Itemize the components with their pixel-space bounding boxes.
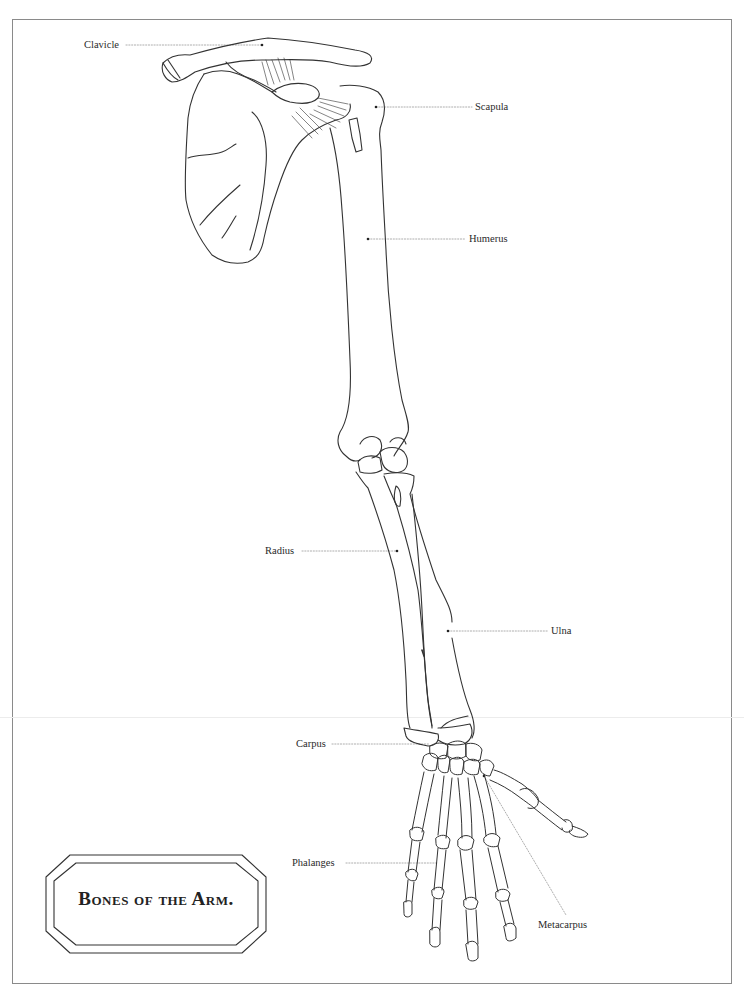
label-carpus: Carpus bbox=[296, 738, 326, 750]
hand-bones bbox=[404, 770, 588, 961]
label-radius: Radius bbox=[265, 545, 294, 557]
label-ulna: Ulna bbox=[551, 625, 571, 637]
title-plaque: Bones of the Arm. bbox=[45, 855, 267, 953]
humerus-bone bbox=[330, 85, 409, 473]
label-clavicle: Clavicle bbox=[84, 39, 119, 51]
label-humerus: Humerus bbox=[469, 233, 508, 245]
leader-dots bbox=[261, 44, 486, 778]
diagram-title: Bones of the Arm. bbox=[45, 888, 267, 910]
radius-bone bbox=[356, 472, 439, 746]
arm-skeleton-illustration bbox=[0, 0, 744, 994]
label-metacarpus: Metacarpus bbox=[538, 919, 587, 931]
scapula-bone bbox=[185, 58, 350, 263]
label-scapula: Scapula bbox=[475, 101, 508, 113]
label-phalanges: Phalanges bbox=[292, 857, 335, 869]
carpus-bones bbox=[422, 741, 494, 776]
